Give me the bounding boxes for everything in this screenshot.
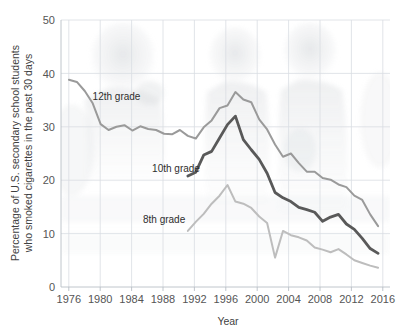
x-tick-1996: 1996	[214, 293, 238, 305]
y-tick-10: 10	[43, 228, 55, 240]
y-tick-20: 20	[43, 174, 55, 186]
y-tick-0: 0	[49, 281, 55, 293]
series-label-10th-grade: 10th grade	[152, 163, 200, 174]
x-tick-1980: 1980	[88, 293, 112, 305]
smoking-prevalence-line-chart: 50 40 30 20 10 0 1976 1980 1984 1988 199…	[0, 0, 402, 335]
y-tick-30: 30	[43, 121, 55, 133]
x-axis-title: Year	[217, 315, 239, 327]
x-tick-2004: 2004	[276, 293, 300, 305]
series-label-8th-grade: 8th grade	[143, 214, 186, 225]
x-tick-2012: 2012	[339, 293, 363, 305]
x-tick-1992: 1992	[182, 293, 206, 305]
x-tick-1988: 1988	[151, 293, 175, 305]
x-axis-tick-labels: 1976 1980 1984 1988 1992 1996 2000 2004 …	[57, 293, 395, 305]
x-tick-2008: 2008	[308, 293, 332, 305]
x-tick-1976: 1976	[57, 293, 81, 305]
x-tick-2016: 2016	[371, 293, 395, 305]
x-tick-2000: 2000	[245, 293, 269, 305]
y-axis-title-line2: who smoked cigarettes in the past 30 day…	[22, 54, 34, 253]
chart-container: 50 40 30 20 10 0 1976 1980 1984 1988 199…	[0, 0, 402, 335]
y-tick-50: 50	[43, 14, 55, 26]
series-label-12th-grade: 12th grade	[93, 91, 141, 102]
y-axis-title-line1: Percentage of U.S. secondary school stud…	[9, 45, 21, 261]
y-tick-40: 40	[43, 68, 55, 80]
x-tick-1984: 1984	[119, 293, 143, 305]
